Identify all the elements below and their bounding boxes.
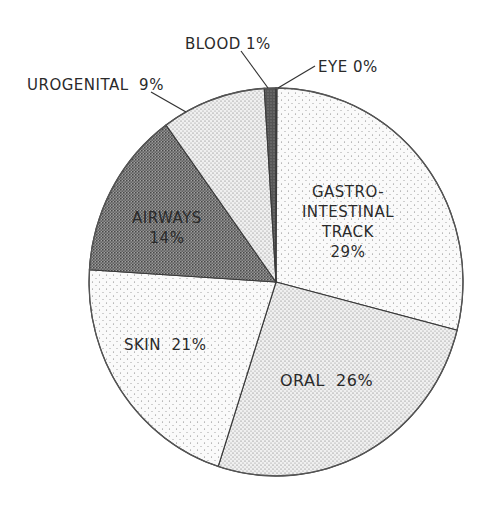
label-skin: SKIN 21% xyxy=(124,336,206,354)
blood-leader-line xyxy=(241,51,268,88)
label-airways-percent: 14% xyxy=(150,229,185,247)
label-gi-line2: INTESTINAL xyxy=(302,203,394,221)
label-oral: ORAL 26% xyxy=(280,371,373,390)
label-urogenital: UROGENITAL 9% xyxy=(27,76,164,94)
pie-slices xyxy=(89,88,463,476)
label-airways: AIRWAYS xyxy=(132,209,202,227)
pie-chart: BLOOD 1% EYE 0% UROGENITAL 9% GASTRO- IN… xyxy=(0,0,492,507)
label-gi-line3: TRACK xyxy=(321,223,374,241)
label-blood: BLOOD 1% xyxy=(185,35,271,53)
label-eye: EYE 0% xyxy=(318,58,378,76)
label-gi-line1: GASTRO- xyxy=(312,183,384,201)
label-gi-percent: 29% xyxy=(331,243,366,261)
urogenital-leader-line xyxy=(151,92,186,112)
eye-leader-line xyxy=(278,66,315,88)
